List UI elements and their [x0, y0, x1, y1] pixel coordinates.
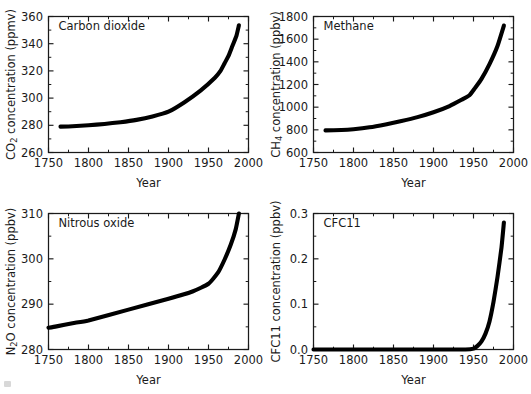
svg-text:1800: 1800 — [279, 10, 308, 24]
svg-text:1900: 1900 — [419, 353, 448, 367]
chart-cfc11: 1750180018501900195020000.00.10.20.3 CFC… — [265, 197, 531, 394]
svg-text:280: 280 — [21, 118, 43, 132]
svg-text:CO2 concentration (ppmv): CO2 concentration (ppmv) — [4, 9, 20, 160]
panel-title-nitrous-oxide: Nitrous oxide — [59, 216, 135, 230]
ylabel-cfc11: CFC11 concentration (ppbv) — [269, 201, 283, 363]
chart-methane: 1750180018501900195020006008001000120014… — [265, 0, 531, 197]
ticklabels-carbon-dioxide: 1750180018501900195020002602803003203403… — [21, 10, 263, 171]
ylabel-carbon-dioxide: CO2 concentration (ppmv) — [4, 9, 20, 160]
ticklabels-methane: 1750180018501900195020006008001000120014… — [279, 10, 528, 171]
plot-frame-methane — [314, 17, 514, 153]
data-curve-carbon-dioxide — [61, 25, 239, 126]
svg-text:1950: 1950 — [194, 156, 223, 170]
svg-text:CH4 concentration (ppbv): CH4 concentration (ppbv) — [269, 11, 285, 158]
svg-text:0.2: 0.2 — [290, 252, 308, 266]
chart-nitrous-oxide: 175018001850190019502000280290300310 Nit… — [0, 197, 265, 394]
svg-text:1400: 1400 — [279, 55, 308, 69]
svg-text:1850: 1850 — [114, 156, 143, 170]
svg-text:2000: 2000 — [499, 156, 528, 170]
svg-text:360: 360 — [21, 10, 43, 24]
svg-text:1850: 1850 — [379, 353, 408, 367]
svg-text:300: 300 — [21, 91, 43, 105]
svg-text:1000: 1000 — [279, 100, 308, 114]
ticks-cfc11 — [314, 214, 514, 350]
svg-text:1900: 1900 — [154, 156, 183, 170]
svg-text:2000: 2000 — [234, 353, 263, 367]
panel-title-methane: Methane — [324, 19, 374, 33]
xlabel-methane: Year — [400, 176, 426, 190]
panel-title-carbon-dioxide: Carbon dioxide — [59, 19, 146, 33]
panel-title-cfc11: CFC11 — [324, 216, 361, 230]
ylabel-nitrous-oxide: N2O concentration (ppbv) — [4, 208, 20, 356]
svg-text:300: 300 — [21, 252, 43, 266]
svg-text:1850: 1850 — [114, 353, 143, 367]
svg-text:2000: 2000 — [234, 156, 263, 170]
svg-text:1900: 1900 — [154, 353, 183, 367]
plot-frame-nitrous-oxide — [49, 214, 249, 350]
svg-text:260: 260 — [21, 146, 43, 160]
svg-text:800: 800 — [286, 123, 308, 137]
svg-text:1950: 1950 — [459, 156, 488, 170]
ticklabels-cfc11: 1750180018501900195020000.00.10.20.3 — [290, 207, 528, 368]
svg-text:340: 340 — [21, 37, 43, 51]
svg-text:1800: 1800 — [74, 156, 103, 170]
svg-text:290: 290 — [21, 297, 43, 311]
svg-text:1200: 1200 — [279, 78, 308, 92]
data-curve-nitrous-oxide — [49, 214, 239, 328]
ticklabels-nitrous-oxide: 175018001850190019502000280290300310 — [21, 207, 263, 368]
chart-carbon-dioxide: 1750180018501900195020002602803003203403… — [0, 0, 265, 197]
svg-text:1800: 1800 — [74, 353, 103, 367]
panel-nitrous-oxide: 175018001850190019502000280290300310 Nit… — [0, 197, 265, 394]
svg-text:0.3: 0.3 — [290, 207, 308, 221]
svg-text:280: 280 — [21, 343, 43, 357]
svg-text:CFC11 concentration (ppbv): CFC11 concentration (ppbv) — [269, 201, 283, 363]
svg-text:0.0: 0.0 — [290, 343, 308, 357]
svg-text:310: 310 — [21, 207, 43, 221]
xlabel-cfc11: Year — [400, 373, 426, 387]
xlabel-nitrous-oxide: Year — [135, 373, 161, 387]
svg-text:N2O concentration (ppbv): N2O concentration (ppbv) — [4, 208, 20, 356]
svg-text:0.1: 0.1 — [290, 297, 308, 311]
data-curve-methane — [326, 26, 504, 131]
svg-text:1950: 1950 — [194, 353, 223, 367]
svg-text:600: 600 — [286, 146, 308, 160]
greenhouse-gas-figure: 1750180018501900195020002602803003203403… — [0, 0, 531, 394]
svg-text:1850: 1850 — [379, 156, 408, 170]
svg-text:1800: 1800 — [339, 353, 368, 367]
svg-text:1900: 1900 — [419, 156, 448, 170]
panel-methane: 1750180018501900195020006008001000120014… — [265, 0, 531, 197]
plot-frame-cfc11 — [314, 214, 514, 350]
svg-text:320: 320 — [21, 64, 43, 78]
ylabel-methane: CH4 concentration (ppbv) — [269, 11, 285, 158]
scan-artifact — [4, 381, 11, 387]
xlabel-carbon-dioxide: Year — [135, 176, 161, 190]
svg-text:1600: 1600 — [279, 32, 308, 46]
ticks-nitrous-oxide — [49, 214, 249, 350]
panel-carbon-dioxide: 1750180018501900195020002602803003203403… — [0, 0, 265, 197]
ticks-carbon-dioxide — [49, 17, 249, 153]
data-curve-cfc11 — [314, 223, 504, 350]
plot-frame-carbon-dioxide — [49, 17, 249, 153]
svg-text:1800: 1800 — [339, 156, 368, 170]
svg-text:1950: 1950 — [459, 353, 488, 367]
svg-text:2000: 2000 — [499, 353, 528, 367]
ticks-methane — [314, 17, 514, 153]
panel-cfc11: 1750180018501900195020000.00.10.20.3 CFC… — [265, 197, 531, 394]
